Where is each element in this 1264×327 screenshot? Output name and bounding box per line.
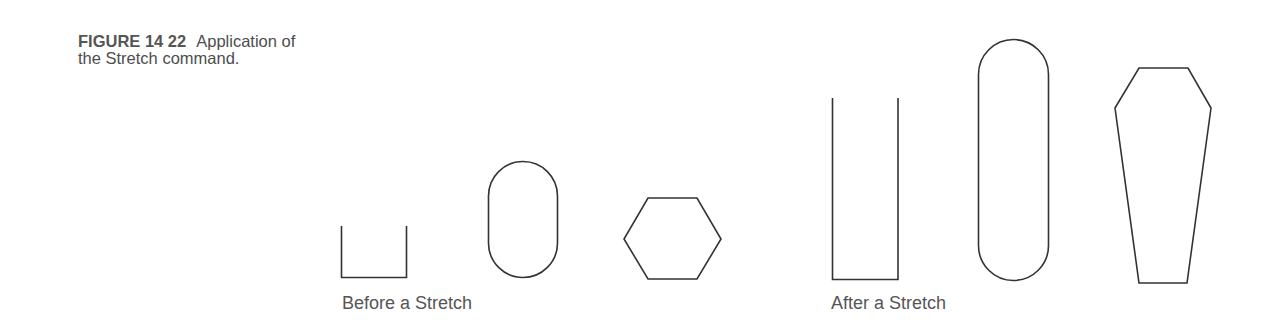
after-stretch-label: After a Stretch: [831, 293, 946, 314]
after-panel: [833, 40, 1212, 284]
hexagon-after: [1115, 68, 1211, 283]
before-panel: [342, 162, 722, 280]
before-stretch-label: Before a Stretch: [342, 293, 472, 314]
obround-after: [979, 40, 1049, 281]
open-rectangle-after: [833, 98, 899, 280]
figure-drawing: [0, 0, 1264, 327]
open-rectangle-before: [342, 226, 407, 278]
hexagon-before: [624, 198, 721, 279]
obround-before: [489, 162, 558, 278]
